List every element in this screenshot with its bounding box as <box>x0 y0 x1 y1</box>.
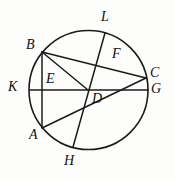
point-label-d: D <box>92 92 102 106</box>
point-label-c: C <box>150 66 159 80</box>
point-label-k: K <box>8 80 17 94</box>
geometry-canvas <box>0 0 175 180</box>
point-label-e: E <box>46 72 55 86</box>
geometry-figure: L B F C K E D G A H <box>0 0 175 180</box>
point-label-b: B <box>26 38 35 52</box>
point-label-g: G <box>151 82 161 96</box>
point-label-h: H <box>64 154 74 168</box>
point-label-l: L <box>101 10 109 24</box>
point-label-f: F <box>112 47 121 61</box>
point-label-a: A <box>29 128 38 142</box>
